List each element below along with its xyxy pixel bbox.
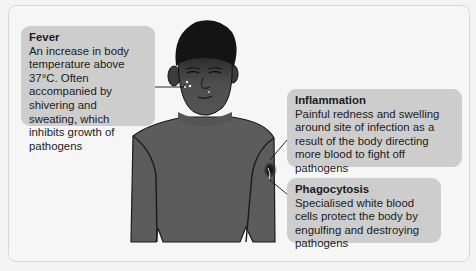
head: [168, 20, 238, 115]
fever-label: Fever An increase in body temperature ab…: [21, 26, 155, 126]
phagocytosis-description: Specialised white blood cells protect th…: [295, 197, 433, 251]
phagocytosis-label: Phagocytosis Specialised white blood cel…: [287, 178, 441, 243]
inflammation-description: Painful redness and swelling around site…: [295, 108, 454, 176]
phagocytosis-title: Phagocytosis: [295, 183, 433, 197]
fever-description: An increase in body temperature above 37…: [29, 45, 147, 154]
inflammation-title: Inflammation: [295, 94, 454, 108]
fever-title: Fever: [29, 31, 147, 45]
shirt: [131, 112, 275, 242]
inflammation-label: Inflammation Painful redness and swellin…: [287, 89, 462, 167]
